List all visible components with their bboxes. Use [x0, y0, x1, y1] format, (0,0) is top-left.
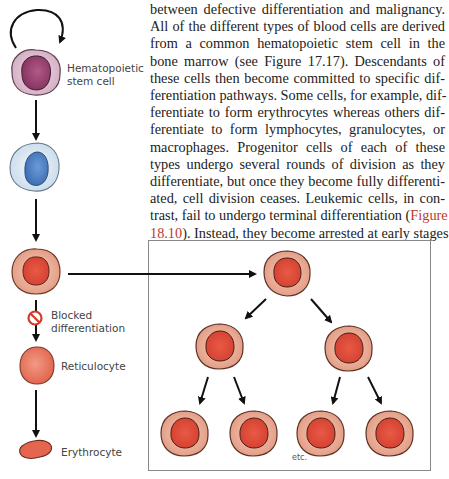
dividing-cell-middle-right [325, 326, 372, 371]
dividing-cell-middle-left [196, 324, 243, 369]
reticulocyte-label: Reticulocyte [61, 360, 126, 373]
reticulocyte-icon [20, 347, 54, 384]
stem-cell-label: Hematopoietic stem cell [67, 62, 144, 88]
self-renewal-arrow [11, 10, 63, 48]
dividing-cell-bottom-1 [161, 411, 208, 456]
blocked-icon [29, 312, 42, 325]
stem-cell-icon [12, 50, 60, 95]
etc-label: etc. [292, 453, 307, 462]
dividing-cell-bottom-3 [297, 411, 344, 456]
progenitor-cell-icon [10, 143, 59, 191]
erythrocyte-icon [20, 440, 52, 458]
erythrocyte-label: Erythrocyte [61, 446, 122, 459]
dividing-cell-bottom-2 [230, 411, 277, 456]
dividing-cell-top [264, 251, 310, 296]
dividing-cell-bottom-4 [366, 411, 413, 456]
blocked-label: Blocked differentiation [51, 309, 125, 335]
arrested-cell-icon [12, 249, 60, 294]
